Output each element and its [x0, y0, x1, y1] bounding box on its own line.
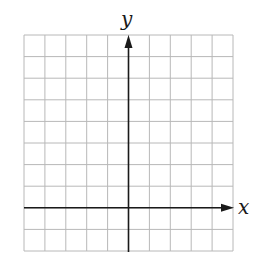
- x-axis-arrowhead: [221, 204, 234, 212]
- x-axis-label: x: [238, 195, 249, 219]
- y-axis-arrowhead: [125, 35, 133, 48]
- y-axis-label: y: [120, 7, 133, 31]
- coordinate-plane: x y: [0, 0, 264, 274]
